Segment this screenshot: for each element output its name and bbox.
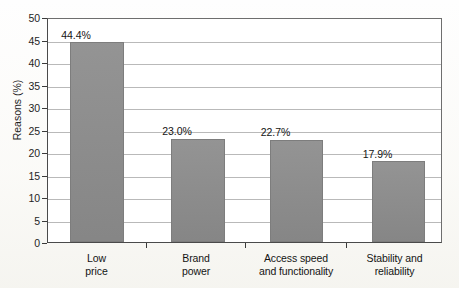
bar-value-access-speed: 22.7% xyxy=(244,127,307,138)
y-tick-label-15: 15 xyxy=(20,171,40,182)
x-category-line2: and functionality xyxy=(246,265,346,278)
x-category-label-access-speed: Access speed and functionality xyxy=(246,252,346,278)
x-tick-mark-1 xyxy=(146,243,147,248)
y-tick-mark-0 xyxy=(42,243,47,244)
x-tick-mark-2 xyxy=(245,243,246,248)
y-tick-label-10: 10 xyxy=(20,193,40,204)
y-axis-title: Reasons (%) xyxy=(11,65,23,155)
x-category-label-brand-power: Brand power xyxy=(147,252,245,278)
bar-chart-figure: 50 45 40 35 30 25 20 15 10 5 0 Reasons (… xyxy=(0,0,459,288)
x-tick-mark-3 xyxy=(346,243,347,248)
x-category-line1: Brand xyxy=(147,252,245,265)
y-tick-label-40: 40 xyxy=(20,58,40,69)
y-tick-label-50: 50 xyxy=(20,13,40,24)
x-category-label-stability-reliability: Stability and reliability xyxy=(347,252,442,278)
x-category-line1: Stability and xyxy=(347,252,442,265)
bar-value-brand-power: 23.0% xyxy=(145,126,209,137)
bar-access-speed xyxy=(270,140,323,242)
bar-low-price xyxy=(70,42,124,242)
x-category-line2: power xyxy=(147,265,245,278)
bar-brand-power xyxy=(171,139,225,243)
y-tick-label-45: 45 xyxy=(20,36,40,47)
x-category-label-low-price: Low price xyxy=(47,252,146,278)
y-tick-label-30: 30 xyxy=(20,103,40,114)
x-category-line1: Low xyxy=(47,252,146,265)
y-tick-label-20: 20 xyxy=(20,148,40,159)
x-category-line2: reliability xyxy=(347,265,442,278)
x-category-line1: Access speed xyxy=(246,252,346,265)
y-tick-label-35: 35 xyxy=(20,81,40,92)
y-tick-label-5: 5 xyxy=(20,216,40,227)
y-tick-label-0: 0 xyxy=(20,238,40,249)
bar-stability-reliability xyxy=(372,161,425,242)
bar-value-stability-reliability: 17.9% xyxy=(346,149,409,160)
bar-value-low-price: 44.4% xyxy=(44,30,108,41)
x-category-line2: price xyxy=(47,265,146,278)
y-tick-label-25: 25 xyxy=(20,126,40,137)
